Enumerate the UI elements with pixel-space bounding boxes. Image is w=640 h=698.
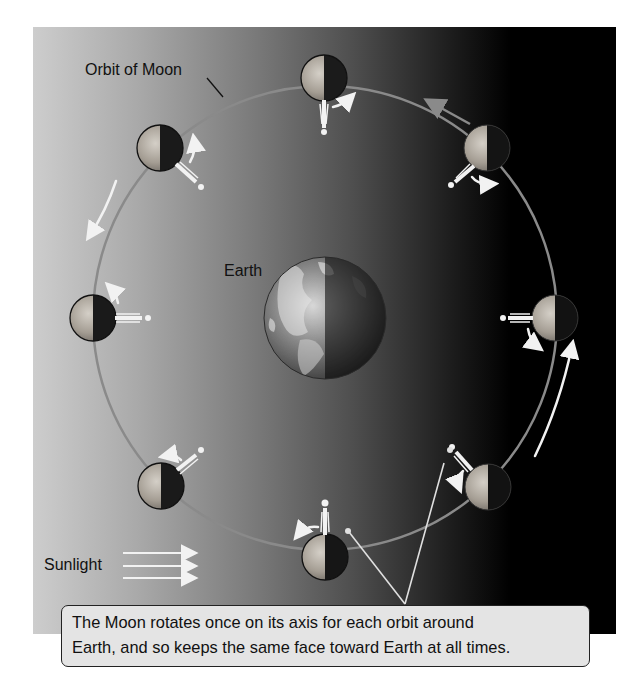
orbit-direction-arrow-icon (432, 103, 470, 124)
moon-left-icon (70, 295, 116, 341)
moon-bottom-icon (302, 534, 348, 580)
moon-bottom-right-icon (465, 464, 511, 510)
moon-synchronous-rotation-diagram: Orbit of Moon Earth Sunlight The Moon ro… (0, 0, 640, 698)
observer-figure-bottom-icon (321, 500, 329, 536)
rotation-arrow-bottom-left-icon (165, 456, 181, 461)
caption-callout-lines (345, 447, 453, 604)
earth-globe-icon (264, 257, 386, 379)
observer-figure-top-icon (320, 100, 328, 135)
rotation-arrow-top-right-icon (472, 177, 492, 184)
orbit-label-leader-line (207, 78, 223, 97)
moon-right-icon (532, 295, 578, 341)
observer-figure-top-left-icon (176, 162, 204, 190)
rotation-arrow-top-left-icon (190, 140, 195, 162)
rotation-arrow-left-icon (110, 287, 118, 303)
caption-line-2: Earth, and so keeps the same face toward… (72, 635, 589, 660)
sunlight-arrows-icon (123, 553, 192, 578)
earth-label: Earth (224, 263, 262, 279)
caption-line-1: The Moon rotates once on its axis for ea… (72, 610, 589, 635)
observer-figure-bottom-right-icon (449, 444, 472, 472)
rotation-arrow-bottom-icon (298, 527, 318, 535)
diagram-canvas (0, 0, 640, 698)
observer-figure-top-right-icon (448, 164, 474, 188)
caption-box: The Moon rotates once on its axis for ea… (61, 605, 590, 667)
observer-figure-right-icon (500, 314, 533, 322)
observer-figure-left-icon (115, 314, 151, 322)
rotation-arrow-bottom-right-icon (458, 471, 463, 487)
moon-top-icon (301, 55, 347, 101)
moon-top-right-icon (464, 125, 510, 171)
orbit-of-moon-label: Orbit of Moon (85, 62, 182, 78)
sunlight-label: Sunlight (44, 557, 102, 573)
